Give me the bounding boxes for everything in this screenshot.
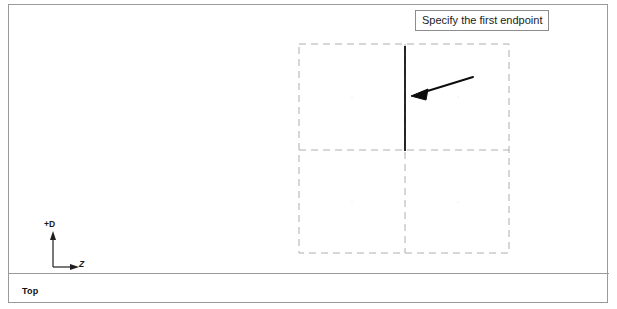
- cad-application-window: +D Z Top Specify the first endpoint: [0, 0, 617, 309]
- grid-cell-mark: [457, 96, 458, 97]
- grid-cell-mark: [457, 201, 458, 202]
- axis-label-vertical: +D: [44, 219, 55, 229]
- axis-arrowhead-vertical: [50, 231, 56, 240]
- construction-grid: [299, 44, 509, 253]
- status-bar-divider: [9, 273, 609, 274]
- grid-cell-mark: [351, 96, 352, 97]
- view-orientation-label: Top: [22, 286, 38, 296]
- command-prompt-tooltip: Specify the first endpoint: [415, 10, 549, 31]
- pointer-arrow-icon: [411, 77, 473, 100]
- axis-label-horizontal: Z: [79, 259, 84, 269]
- axis-orientation-indicator: +D Z: [35, 219, 105, 275]
- drawing-window-frame: +D Z Top: [8, 4, 608, 303]
- grid-outer-rect: [299, 44, 509, 253]
- axis-arrowhead-horizontal: [70, 264, 79, 270]
- grid-cell-mark: [351, 201, 352, 202]
